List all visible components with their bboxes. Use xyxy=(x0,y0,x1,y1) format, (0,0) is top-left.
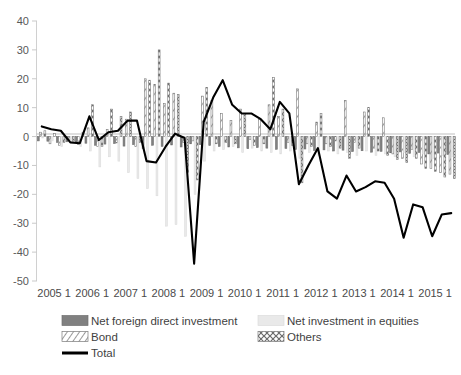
bar xyxy=(297,89,299,137)
legend-label: Total xyxy=(91,347,115,359)
legend-item[interactable]: Total xyxy=(62,347,115,359)
bar xyxy=(161,137,163,147)
bar xyxy=(333,137,335,151)
bar xyxy=(123,137,125,147)
chart-container: 403020100-10-20-30-40-50 2005 12006 1200… xyxy=(0,0,461,375)
bar xyxy=(104,137,106,145)
bar xyxy=(133,137,135,145)
bar xyxy=(218,137,220,147)
y-tick-label: -40 xyxy=(13,246,29,258)
bar xyxy=(377,137,379,151)
bar xyxy=(394,137,396,157)
bar xyxy=(73,137,75,141)
bar xyxy=(387,137,389,156)
bar xyxy=(40,132,42,136)
bar xyxy=(223,137,225,150)
bar xyxy=(225,137,227,143)
bar xyxy=(130,112,132,137)
bar xyxy=(349,137,351,159)
bar xyxy=(404,137,406,153)
bar-series xyxy=(44,50,455,183)
bar xyxy=(270,137,272,153)
legend-swatch xyxy=(258,316,284,326)
y-tick-labels: 403020100-10-20-30-40-50 xyxy=(13,15,29,287)
bar xyxy=(401,137,403,159)
bar xyxy=(316,122,318,136)
bar xyxy=(368,108,370,137)
y-tick-label: -30 xyxy=(13,217,29,229)
bar xyxy=(47,137,49,142)
bar xyxy=(430,137,432,169)
bar xyxy=(127,137,129,173)
y-axis xyxy=(32,21,37,281)
bar xyxy=(87,128,89,137)
bar xyxy=(437,137,439,153)
bar xyxy=(287,137,289,143)
bar xyxy=(149,80,151,136)
bar xyxy=(116,137,118,143)
bar xyxy=(228,137,230,147)
bar xyxy=(268,105,270,137)
bar xyxy=(209,137,211,146)
bar xyxy=(299,137,301,159)
bar xyxy=(249,137,251,140)
legend-swatch xyxy=(62,332,88,342)
bar xyxy=(256,137,258,148)
bar xyxy=(311,137,313,147)
legend-item[interactable]: Net investment in equities xyxy=(258,315,419,327)
bar xyxy=(61,137,63,147)
total-line-layer xyxy=(42,80,451,263)
bar xyxy=(156,137,158,196)
bar xyxy=(259,119,261,136)
legend-swatch xyxy=(258,332,284,342)
bar xyxy=(253,137,255,146)
bar xyxy=(114,137,116,144)
bar xyxy=(327,137,329,151)
bar xyxy=(342,137,344,151)
x-tick-label: 2011 1 xyxy=(266,287,299,299)
bar xyxy=(95,137,97,146)
legend-item[interactable]: Bond xyxy=(62,331,118,343)
bar xyxy=(320,113,322,136)
bar xyxy=(42,137,44,138)
legend-item[interactable]: Others xyxy=(258,331,322,343)
bar xyxy=(346,137,348,153)
bar xyxy=(423,137,425,154)
bar xyxy=(261,137,263,151)
legend-label: Bond xyxy=(91,331,118,343)
bar xyxy=(425,137,427,169)
bar xyxy=(85,137,87,144)
bar xyxy=(244,113,246,136)
bar xyxy=(344,100,346,136)
bar xyxy=(196,137,198,180)
bar xyxy=(180,137,182,147)
bar xyxy=(330,137,332,147)
bar xyxy=(99,137,101,167)
legend-item[interactable]: Net foreign direct investment xyxy=(62,315,238,327)
bar xyxy=(308,137,310,153)
bar xyxy=(173,93,175,136)
x-tick-label: 2007 1 xyxy=(113,287,147,299)
bar xyxy=(273,77,275,136)
y-tick-label: 30 xyxy=(17,44,29,56)
legend-swatch xyxy=(62,316,88,326)
legend-label: Net investment in equities xyxy=(287,315,419,327)
bar xyxy=(232,137,234,147)
bar xyxy=(406,137,408,163)
bar xyxy=(413,137,415,157)
bar xyxy=(266,137,268,149)
bar xyxy=(356,137,358,156)
bar xyxy=(234,137,236,144)
bar xyxy=(175,137,177,225)
y-tick-label: 0 xyxy=(23,131,29,143)
bar xyxy=(453,137,455,179)
bar xyxy=(230,121,232,137)
legend-label: Net foreign direct investment xyxy=(91,315,238,327)
bar xyxy=(375,137,377,156)
bar xyxy=(147,137,149,189)
legend-label: Others xyxy=(287,331,322,343)
bar xyxy=(282,109,284,136)
bar xyxy=(247,137,249,149)
bar xyxy=(211,100,213,136)
bar xyxy=(428,137,430,154)
